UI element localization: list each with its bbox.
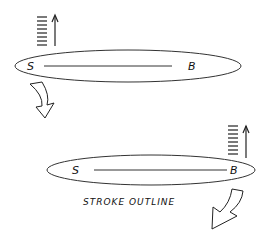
top-end-label: B [188, 60, 196, 73]
bottom-start-label: S [72, 164, 79, 177]
bottom-end-label: B [230, 164, 238, 177]
top-start-label: S [27, 60, 34, 73]
up-arrow-icon [243, 126, 249, 158]
caption: STROKE OUTLINE [83, 197, 175, 207]
stroke-outline-diagram: S B S B STROKE OUTLINE [0, 0, 272, 243]
top-stroke-group: S B [15, 15, 241, 118]
hatch-marks-icon [228, 126, 238, 154]
up-arrow-icon [52, 15, 58, 46]
hatch-marks-icon [37, 17, 47, 45]
curved-down-arrow-icon [30, 82, 54, 118]
bottom-stroke-group: S B STROKE OUTLINE [47, 126, 255, 229]
curved-down-arrow-icon [212, 189, 243, 229]
